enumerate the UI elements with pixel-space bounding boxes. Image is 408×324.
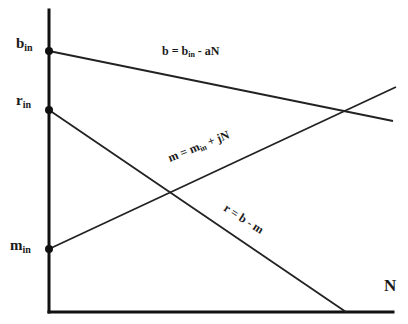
- intercept-dot-m-in: [45, 245, 53, 253]
- line-b: [49, 51, 393, 121]
- label-r-in: rin: [16, 92, 31, 110]
- label-m-in: min: [10, 237, 31, 255]
- equation-m: m = min + jN: [166, 127, 232, 165]
- intercept-dot-r-in: [45, 106, 53, 114]
- diagram-canvas: bin rin min N b = bin - aN m = min + jN …: [0, 0, 408, 324]
- line-m: [49, 87, 396, 249]
- equation-b: b = bin - aN: [162, 44, 220, 59]
- label-b-in: bin: [16, 35, 33, 53]
- line-r: [49, 110, 346, 312]
- x-axis-label: N: [384, 276, 397, 295]
- intercept-dot-b-in: [45, 47, 53, 55]
